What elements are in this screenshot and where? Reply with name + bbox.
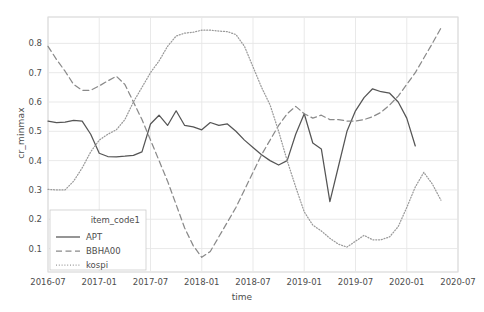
x-tick-label: 2019-01 xyxy=(286,277,322,287)
y-tick-label: 0.8 xyxy=(14,38,42,48)
x-tick-label: 2016-07 xyxy=(30,277,66,287)
x-tick-label: 2017-01 xyxy=(81,277,117,287)
y-tick-label: 0.6 xyxy=(14,97,42,107)
y-tick-label: 0.1 xyxy=(14,244,42,254)
x-tick-label: 2020-07 xyxy=(440,277,476,287)
y-tick-label: 0.2 xyxy=(14,214,42,224)
y-tick-label: 0.3 xyxy=(14,185,42,195)
y-tick-label: 0.7 xyxy=(14,68,42,78)
legend-label-kospi[interactable]: kospi xyxy=(86,260,108,270)
x-tick-label: 2020-01 xyxy=(389,277,425,287)
legend-label-apt[interactable]: APT xyxy=(86,232,103,242)
x-tick-label: 2018-01 xyxy=(184,277,220,287)
legend-title: item_code1 xyxy=(91,215,140,225)
x-tick-label: 2017-07 xyxy=(133,277,169,287)
x-axis-label: time xyxy=(0,292,484,302)
line-chart: item_code1APTBBHA00kospi cr_minmax time … xyxy=(0,0,484,312)
legend-label-bbha00[interactable]: BBHA00 xyxy=(86,246,121,256)
y-tick-label: 0.5 xyxy=(14,126,42,136)
x-tick-label: 2019-07 xyxy=(338,277,374,287)
y-tick-label: 0.4 xyxy=(14,156,42,166)
plot-canvas: item_code1APTBBHA00kospi xyxy=(0,0,484,312)
x-tick-label: 2018-07 xyxy=(235,277,271,287)
